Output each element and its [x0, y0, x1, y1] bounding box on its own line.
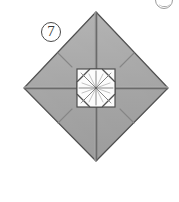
origami-figure: 7 [0, 0, 179, 202]
center-assembly [77, 69, 115, 107]
step-number-label: 7 [38, 19, 64, 45]
origami-diagram-svg [0, 0, 179, 202]
step-number-text: 7 [47, 24, 55, 40]
center-point [95, 87, 97, 89]
